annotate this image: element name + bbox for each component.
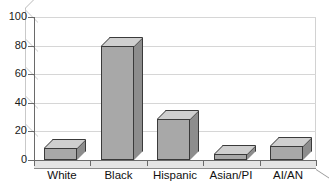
y-axis-label-60: 60 (1, 68, 27, 79)
bar-ai-an-front-face (270, 146, 303, 160)
chart-floor-right-edge (316, 152, 329, 178)
y-axis-line (34, 17, 35, 160)
x-tick-5 (316, 160, 317, 166)
x-axis-label-ai-an: AI/AN (260, 170, 316, 182)
y-axis-label-20: 20 (1, 125, 27, 136)
bar-white[interactable] (44, 148, 77, 160)
gridline-80 (34, 46, 316, 47)
x-axis-label-black: Black (90, 170, 147, 182)
y-tick-80 (28, 46, 34, 47)
x-tick-3 (203, 160, 204, 166)
bar-hispanic-front-face (157, 119, 190, 160)
x-tick-2 (147, 160, 148, 166)
gridline-100 (34, 17, 316, 18)
bar-black-side-face (134, 37, 143, 160)
gridline-40 (34, 103, 316, 104)
bar-white-front-face (44, 148, 77, 160)
y-tick-60 (28, 74, 34, 75)
y-axis-label-0: 0 (1, 154, 27, 165)
bar-hispanic[interactable] (157, 119, 190, 160)
bar-asian-pi-front-face (214, 154, 247, 160)
x-axis-label-asian-pi: Asian/PI (201, 170, 261, 182)
x-tick-4 (260, 160, 261, 166)
bar-black[interactable] (101, 46, 134, 160)
bar-asian-pi[interactable] (214, 154, 247, 160)
x-tick-1 (90, 160, 91, 166)
y-tick-20 (28, 131, 34, 132)
x-axis-label-hispanic: Hispanic (145, 170, 205, 182)
y-axis-label-40: 40 (1, 97, 27, 108)
y-axis-label-80: 80 (1, 40, 27, 51)
bar-black-front-face (101, 46, 134, 160)
chart-floor (34, 160, 316, 169)
y-tick-100 (28, 17, 34, 18)
y-axis-label-100: 100 (1, 11, 27, 22)
x-tick-0 (34, 160, 35, 166)
x-axis-label-white: White (34, 170, 90, 182)
bar-ai-an[interactable] (270, 146, 303, 160)
gridline-60 (34, 74, 316, 75)
y-tick-40 (28, 103, 34, 104)
